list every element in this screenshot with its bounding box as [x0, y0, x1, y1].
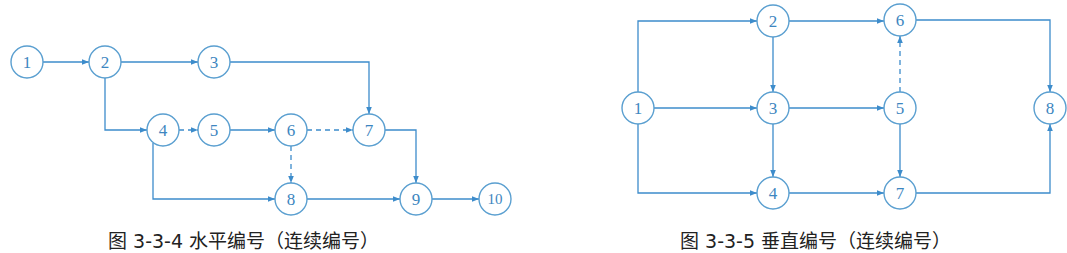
- svg-text:6: 6: [287, 121, 296, 140]
- svg-text:1: 1: [23, 53, 32, 72]
- svg-text:5: 5: [896, 99, 905, 118]
- left-figure-caption: 图 3-3-4 水平编号（连续编号）: [108, 226, 379, 253]
- svg-text:8: 8: [1046, 99, 1055, 118]
- node-8: 8: [275, 183, 307, 215]
- svg-text:9: 9: [412, 190, 421, 209]
- svg-text:4: 4: [769, 184, 778, 203]
- svg-text:4: 4: [159, 121, 168, 140]
- svg-text:6: 6: [896, 11, 905, 30]
- node-1: 1: [622, 92, 654, 124]
- svg-text:3: 3: [210, 53, 219, 72]
- edge-1-4: [638, 124, 757, 193]
- edge-7-9: [385, 130, 416, 183]
- svg-text:7: 7: [896, 184, 905, 203]
- right-figure-caption: 图 3-3-5 垂直编号（连续编号）: [680, 226, 951, 253]
- left-diagram-edges: [43, 62, 479, 199]
- edge-3-7: [230, 62, 369, 114]
- node-7: 7: [884, 177, 916, 209]
- svg-text:3: 3: [769, 99, 778, 118]
- edge-2-4: [105, 78, 147, 130]
- node-6: 6: [884, 4, 916, 36]
- svg-text:7: 7: [365, 121, 374, 140]
- edge-4-8: [153, 143, 275, 199]
- node-2: 2: [89, 46, 121, 78]
- svg-text:10: 10: [488, 191, 503, 207]
- node-3: 3: [757, 92, 789, 124]
- edge-1-2: [638, 21, 757, 92]
- node-7: 7: [353, 114, 385, 146]
- node-4: 4: [757, 177, 789, 209]
- node-4: 4: [147, 114, 179, 146]
- svg-text:5: 5: [210, 121, 219, 140]
- node-6: 6: [275, 114, 307, 146]
- edge-6-8: [916, 20, 1050, 92]
- right-diagram-edges: [638, 20, 1050, 193]
- node-1: 1: [11, 46, 43, 78]
- node-10: 10: [479, 183, 511, 215]
- node-9: 9: [400, 183, 432, 215]
- node-5: 5: [198, 114, 230, 146]
- right-diagram-nodes: 1 2 3 4 5 6 7 8: [622, 4, 1066, 209]
- node-2: 2: [757, 5, 789, 37]
- svg-text:8: 8: [287, 190, 296, 209]
- svg-text:1: 1: [634, 99, 643, 118]
- node-8: 8: [1034, 92, 1066, 124]
- svg-text:2: 2: [101, 53, 110, 72]
- node-3: 3: [198, 46, 230, 78]
- node-5: 5: [884, 92, 916, 124]
- edge-7-8: [916, 124, 1050, 193]
- svg-text:2: 2: [769, 12, 778, 31]
